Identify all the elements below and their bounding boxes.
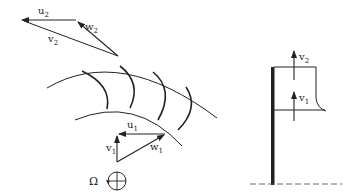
v2-label: v2 bbox=[47, 33, 58, 47]
blade-1 bbox=[82, 71, 108, 109]
u1-label: u1 bbox=[127, 119, 138, 133]
shroud-side bbox=[316, 67, 326, 111]
v2-axial-label: v2 bbox=[298, 51, 309, 65]
blade-2 bbox=[120, 66, 134, 108]
v1-axial-label: v1 bbox=[298, 92, 309, 106]
impeller-diagram: u2 w2 v2 u1 v1 w1 Ω v2 v1 bbox=[0, 0, 356, 195]
shaft-wall bbox=[271, 67, 275, 185]
v1-label: v1 bbox=[105, 142, 116, 156]
blade-3 bbox=[153, 72, 165, 120]
inlet-velocity-triangle: u1 v1 w1 bbox=[105, 119, 165, 162]
w1-label: w1 bbox=[150, 141, 163, 155]
outlet-velocity-triangle: u2 w2 v2 bbox=[22, 5, 118, 56]
v2-vector bbox=[24, 21, 118, 56]
meridional-section: v2 v1 bbox=[250, 51, 342, 185]
omega-label: Ω bbox=[89, 175, 98, 188]
u2-label: u2 bbox=[38, 5, 49, 19]
rotation-indicator: Ω bbox=[89, 172, 126, 190]
